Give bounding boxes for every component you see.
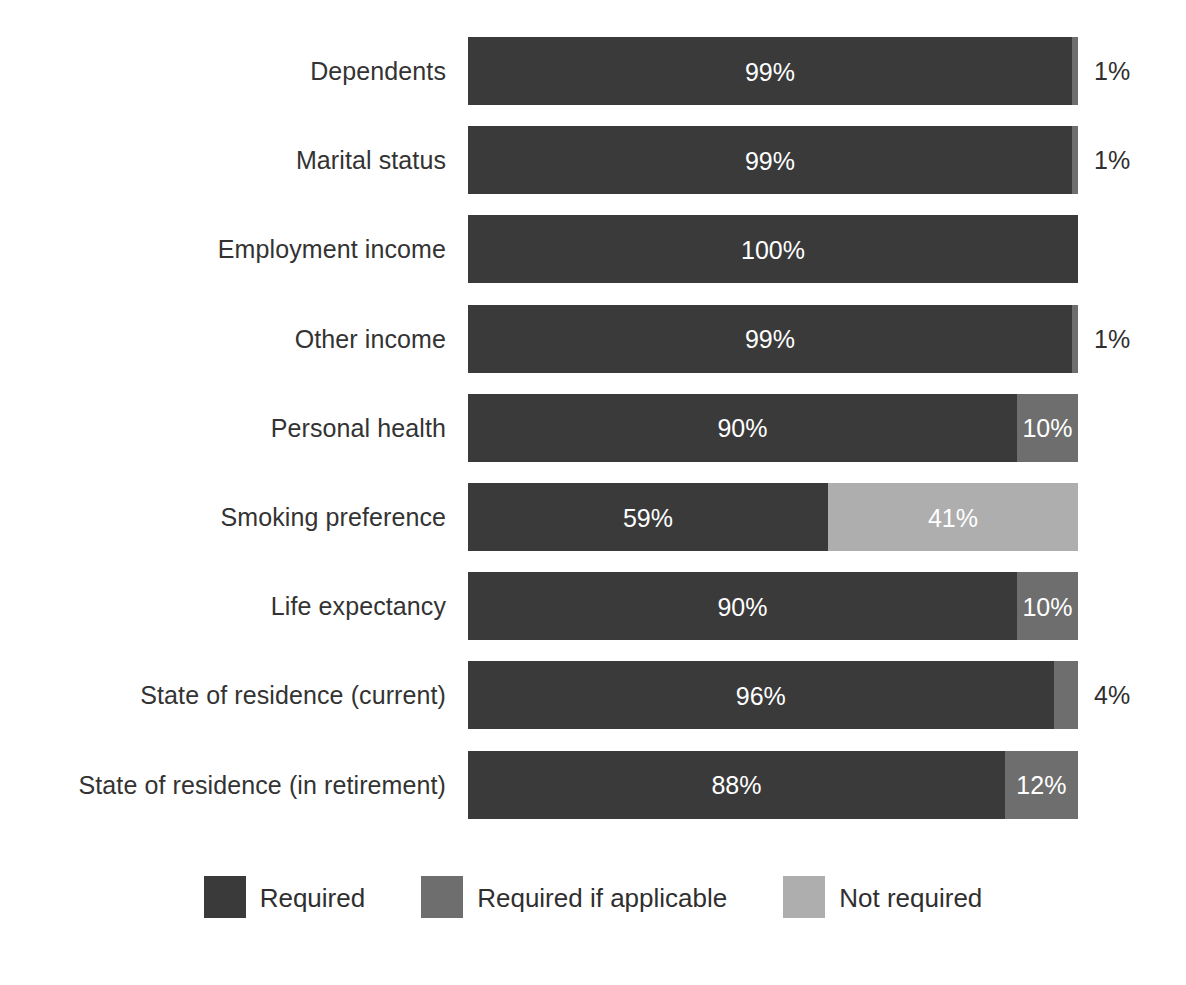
bar-segment-required-if-applicable: 10%	[1017, 394, 1078, 462]
bar-row: Marital status1%99%1%	[0, 126, 1186, 194]
category-label: Other income	[295, 305, 446, 373]
segment-value-label-outside: 1%	[1094, 305, 1130, 373]
bar-row: Personal health90%10%	[0, 394, 1186, 462]
bar-row: Other income1%99%1%	[0, 305, 1186, 373]
bar-track: 99%1%	[468, 126, 1078, 194]
category-label: State of residence (current)	[140, 661, 446, 729]
bar-segment-not-required: 41%	[828, 483, 1078, 551]
segment-value-label: 12%	[1016, 773, 1066, 798]
segment-value-label: 41%	[928, 506, 978, 531]
bar-segment-required: 90%	[468, 572, 1017, 640]
bar-segment-required-if-applicable: 4%	[1054, 661, 1078, 729]
category-label: State of residence (in retirement)	[79, 751, 446, 819]
bar-segment-required: 99%	[468, 305, 1072, 373]
bar-segment-required: 88%	[468, 751, 1005, 819]
legend-item-not-required[interactable]: Not required	[783, 876, 982, 918]
segment-value-label: 100%	[741, 238, 805, 263]
legend-swatch-icon	[421, 876, 463, 918]
bar-segment-required-if-applicable: 1%	[1072, 305, 1078, 373]
legend-swatch-icon	[204, 876, 246, 918]
segment-value-label-outside: 1%	[1094, 37, 1130, 105]
category-label: Employment income	[218, 215, 446, 283]
segment-value-label: 99%	[745, 327, 795, 352]
legend-item-required[interactable]: Required	[204, 876, 366, 918]
segment-value-label: 99%	[745, 149, 795, 174]
segment-value-label: 90%	[717, 595, 767, 620]
legend-label: Required	[260, 885, 366, 911]
bar-track: 88%12%	[468, 751, 1078, 819]
bar-segment-required-if-applicable: 1%	[1072, 37, 1078, 105]
legend-item-required-if-applicable[interactable]: Required if applicable	[421, 876, 727, 918]
segment-value-label: 96%	[736, 684, 786, 709]
legend-label: Required if applicable	[477, 885, 727, 911]
bar-segment-required: 99%	[468, 126, 1072, 194]
segment-value-label: 10%	[1022, 416, 1072, 441]
bar-row: Dependents1%99%1%	[0, 37, 1186, 105]
bar-track: 59%41%	[468, 483, 1078, 551]
bar-row: Life expectancy90%10%	[0, 572, 1186, 640]
bar-track: 99%1%	[468, 305, 1078, 373]
bar-segment-required: 59%	[468, 483, 828, 551]
bar-row: Employment income100%	[0, 215, 1186, 283]
segment-value-label-outside: 1%	[1094, 126, 1130, 194]
bar-track: 96%4%	[468, 661, 1078, 729]
bar-track: 100%	[468, 215, 1078, 283]
bar-row: State of residence (in retirement)88%12%	[0, 751, 1186, 819]
segment-value-label: 59%	[623, 506, 673, 531]
bar-track: 90%10%	[468, 394, 1078, 462]
category-label: Marital status	[296, 126, 446, 194]
plot-area: Dependents1%99%1%Marital status1%99%1%Em…	[0, 0, 1186, 860]
bar-row: Smoking preference59%41%	[0, 483, 1186, 551]
segment-value-label: 88%	[711, 773, 761, 798]
category-label: Life expectancy	[271, 572, 446, 640]
legend-label: Not required	[839, 885, 982, 911]
segment-value-label: 90%	[717, 416, 767, 441]
bar-segment-required: 96%	[468, 661, 1054, 729]
chart-legend: RequiredRequired if applicableNot requir…	[0, 876, 1186, 918]
bar-segment-required: 100%	[468, 215, 1078, 283]
bar-track: 90%10%	[468, 572, 1078, 640]
category-label: Personal health	[271, 394, 446, 462]
segment-value-label: 99%	[745, 60, 795, 85]
segment-value-label: 10%	[1022, 595, 1072, 620]
category-label: Smoking preference	[220, 483, 446, 551]
bar-segment-required-if-applicable: 1%	[1072, 126, 1078, 194]
stacked-bar-chart: Dependents1%99%1%Marital status1%99%1%Em…	[0, 0, 1186, 985]
category-label: Dependents	[310, 37, 446, 105]
bar-row: State of residence (current)4%96%4%	[0, 661, 1186, 729]
legend-swatch-icon	[783, 876, 825, 918]
bar-segment-required: 90%	[468, 394, 1017, 462]
bar-segment-required-if-applicable: 12%	[1005, 751, 1078, 819]
bar-segment-required-if-applicable: 10%	[1017, 572, 1078, 640]
segment-value-label-outside: 4%	[1094, 661, 1130, 729]
bar-segment-required: 99%	[468, 37, 1072, 105]
bar-track: 99%1%	[468, 37, 1078, 105]
